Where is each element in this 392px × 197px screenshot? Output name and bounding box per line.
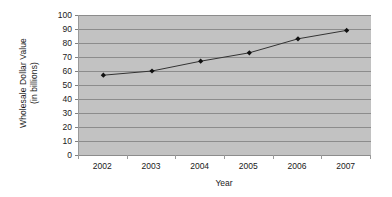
y-axis-tick-label: 70 xyxy=(48,53,72,62)
y-axis-tick-mark xyxy=(75,85,78,86)
y-axis-tick-mark xyxy=(75,71,78,72)
y-axis-tick-mark xyxy=(75,127,78,128)
y-axis-tick-mark xyxy=(75,113,78,114)
x-axis-tick-label: 2007 xyxy=(321,161,371,171)
y-axis-tick-mark xyxy=(75,43,78,44)
x-axis-tick-mark xyxy=(321,155,322,159)
data-point-marker xyxy=(198,59,203,64)
y-axis-tick-label: 60 xyxy=(48,67,72,76)
x-axis-tick-label: 2004 xyxy=(175,161,225,171)
data-point-marker xyxy=(247,50,252,55)
data-point-marker xyxy=(149,68,154,73)
y-axis-tick-label: 40 xyxy=(48,95,72,104)
x-axis-tick-label: 2002 xyxy=(77,161,127,171)
x-axis-title: Year xyxy=(78,178,370,188)
x-axis-tick-mark xyxy=(370,155,371,159)
y-axis-tick-label: 20 xyxy=(48,123,72,132)
data-point-marker xyxy=(295,36,300,41)
y-axis-title: Wholesale Dollar Value (in billions) xyxy=(18,8,48,158)
line-chart: Wholesale Dollar Value (in billions) 010… xyxy=(0,0,392,197)
x-axis-tick-mark xyxy=(78,155,79,159)
plot-area xyxy=(78,15,371,155)
x-axis-tick-label: 2006 xyxy=(272,161,322,171)
y-axis-tick-mark xyxy=(75,99,78,100)
series-line xyxy=(103,30,346,75)
y-axis-tick-mark xyxy=(75,15,78,16)
x-axis-tick-mark xyxy=(273,155,274,159)
y-axis-tick-label: 50 xyxy=(48,81,72,90)
y-axis-tick-labels: 0102030405060708090100 xyxy=(48,15,72,155)
x-axis-tick-label: 2003 xyxy=(126,161,176,171)
y-axis-tick-label: 30 xyxy=(48,109,72,118)
x-axis-tick-mark xyxy=(127,155,128,159)
data-point-marker xyxy=(344,28,349,33)
series-line-layer xyxy=(79,15,371,155)
y-axis-title-line-1: Wholesale Dollar Value xyxy=(18,8,29,158)
y-axis-tick-label: 0 xyxy=(48,151,72,160)
y-axis-tick-mark xyxy=(75,57,78,58)
y-axis-title-line-2: (in billions) xyxy=(29,8,40,158)
y-axis-tick-label: 10 xyxy=(48,137,72,146)
y-axis-tick-mark xyxy=(75,29,78,30)
x-axis-tick-label: 2005 xyxy=(223,161,273,171)
y-axis-tick-mark xyxy=(75,141,78,142)
x-axis-tick-mark xyxy=(224,155,225,159)
y-axis-tick-label: 100 xyxy=(48,11,72,20)
y-axis-tick-label: 80 xyxy=(48,39,72,48)
x-axis-tick-mark xyxy=(175,155,176,159)
y-axis-tick-label: 90 xyxy=(48,25,72,34)
data-point-marker xyxy=(101,73,106,78)
